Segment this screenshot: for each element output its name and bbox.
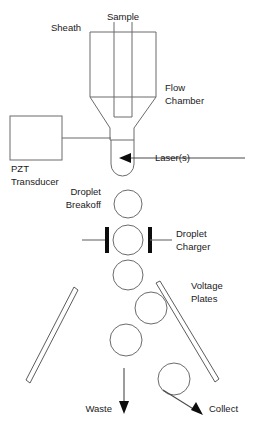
- label-droplet-breakoff-line1: Droplet: [70, 186, 101, 197]
- droplet-deflected-right-1: [135, 292, 167, 324]
- label-collect: Collect: [209, 403, 238, 414]
- flow-chamber-shape: [90, 32, 156, 140]
- pzt-transducer-box: [10, 116, 111, 160]
- label-flow-chamber-line2: Chamber: [165, 95, 204, 106]
- label-droplet-charger-line2: Charger: [176, 241, 210, 252]
- voltage-plate-left: [26, 287, 78, 383]
- droplet-in-charger: [113, 225, 143, 255]
- label-lasers: Laser(s): [155, 152, 190, 163]
- droplet-charger-electrodes: [82, 227, 172, 253]
- label-sample: Sample: [107, 11, 139, 22]
- waste-arrow: [119, 368, 129, 414]
- label-sheath: Sheath: [51, 22, 81, 33]
- schematic-svg: Sheath Sample Flow Chamber PZT Transduce…: [0, 0, 257, 430]
- label-pzt-line1: PZT: [11, 163, 29, 174]
- label-voltage-plates-line1: Voltage: [191, 280, 223, 291]
- label-voltage-plates-line2: Plates: [191, 293, 218, 304]
- label-waste: Waste: [85, 403, 112, 414]
- sample-tube: [114, 22, 132, 117]
- droplet-breakoff: [114, 190, 142, 218]
- flow-cytometer-diagram: Sheath Sample Flow Chamber PZT Transduce…: [0, 0, 257, 430]
- droplet-deflected-right-2: [158, 363, 190, 395]
- charger-bar-left: [105, 227, 109, 253]
- droplet-undeflected-2: [110, 324, 142, 356]
- collect-arrow: [163, 390, 203, 415]
- droplet-stream: [110, 190, 190, 395]
- label-droplet-charger-line1: Droplet: [176, 228, 207, 239]
- label-pzt-line2: Transducer: [11, 176, 59, 187]
- label-flow-chamber-line1: Flow: [165, 82, 185, 93]
- label-droplet-breakoff-line2: Breakoff: [66, 199, 102, 210]
- droplet-undeflected-1: [113, 260, 143, 290]
